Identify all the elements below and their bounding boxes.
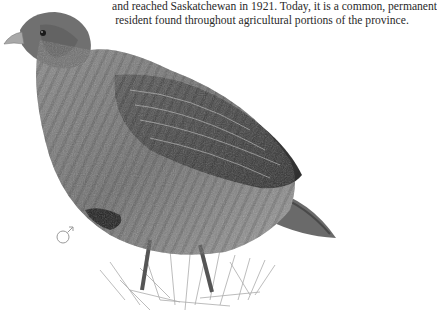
grass [100,250,275,310]
eye [40,30,46,36]
beak [4,32,24,44]
male-sex-icon [54,222,78,246]
